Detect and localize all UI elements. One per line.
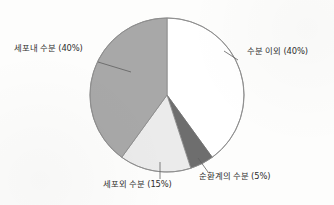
pie-chart-canvas	[0, 0, 334, 205]
pie-label-circulatory: 순환계의 수분 (5%)	[199, 172, 270, 181]
pie-label-intracellular: 세포내 수분 (40%)	[14, 44, 83, 53]
pie-label-nonwater: 수분 이외 (40%)	[247, 47, 308, 56]
pie-chart-figure: 세포내 수분 (40%) 수분 이외 (40%) 세포외 수분 (15%) 순환…	[0, 0, 334, 205]
pie-label-extracellular: 세포외 수분 (15%)	[103, 180, 172, 189]
